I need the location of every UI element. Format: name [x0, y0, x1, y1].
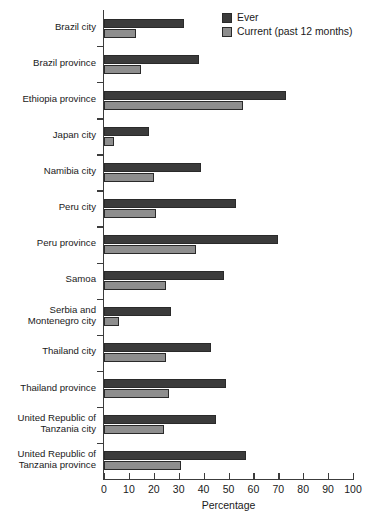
- bar-current: [104, 389, 169, 398]
- bar-group: [104, 19, 184, 38]
- category-label: Peru city: [0, 202, 96, 213]
- bar-group: [104, 379, 226, 398]
- bar-group: [104, 415, 216, 434]
- bar-ever: [104, 55, 199, 64]
- category-label: Samoa: [0, 274, 96, 285]
- chart-row: Brazil province: [0, 46, 375, 82]
- y-axis-tick: [97, 299, 104, 300]
- x-axis-tick: [179, 473, 180, 480]
- bar-current: [104, 317, 119, 326]
- bar-group: [104, 163, 201, 182]
- bar-chart: Brazil cityBrazil provinceEthiopia provi…: [0, 0, 375, 520]
- chart-row: Peru province: [0, 226, 375, 262]
- category-label: Brazil province: [0, 58, 96, 69]
- y-axis-tick: [97, 263, 104, 264]
- legend-item-ever: Ever: [222, 12, 353, 23]
- chart-row: United Republic of Tanzania province: [0, 443, 375, 479]
- x-axis-tick: [353, 473, 354, 480]
- y-axis-tick: [97, 226, 104, 227]
- bar-ever: [104, 379, 226, 388]
- bar-group: [104, 271, 224, 290]
- x-axis-tick: [328, 473, 329, 480]
- y-axis-tick: [97, 118, 104, 119]
- category-label: Namibia city: [0, 166, 96, 177]
- bar-current: [104, 245, 196, 254]
- bar-group: [104, 199, 236, 218]
- category-label: Thailand city: [0, 346, 96, 357]
- x-axis-tick: [229, 473, 230, 480]
- bar-current: [104, 173, 154, 182]
- bar-ever: [104, 271, 224, 280]
- y-axis-tick: [97, 82, 104, 83]
- bar-current: [104, 209, 156, 218]
- category-label: United Republic of Tanzania city: [0, 413, 96, 434]
- bar-ever: [104, 307, 171, 316]
- chart-row: Ethiopia province: [0, 82, 375, 118]
- legend-swatch-ever-icon: [222, 13, 232, 23]
- chart-row: Serbia and Montenegro city: [0, 299, 375, 335]
- bar-current: [104, 65, 141, 74]
- x-axis-tick-label: 100: [338, 483, 368, 495]
- bar-group: [104, 451, 246, 470]
- x-axis-tick: [253, 473, 254, 480]
- category-label: Ethiopia province: [0, 94, 96, 105]
- category-label: United Republic of Tanzania province: [0, 449, 96, 470]
- bar-group: [104, 55, 199, 74]
- category-label: Japan city: [0, 130, 96, 141]
- chart-rows: Brazil cityBrazil provinceEthiopia provi…: [0, 10, 375, 479]
- bar-current: [104, 29, 136, 38]
- bar-current: [104, 137, 114, 146]
- category-label: Serbia and Montenegro city: [0, 305, 96, 326]
- legend-swatch-current-icon: [222, 27, 232, 37]
- y-axis-tick: [97, 154, 104, 155]
- bar-ever: [104, 91, 286, 100]
- bar-group: [104, 343, 211, 362]
- chart-legend: Ever Current (past 12 months): [222, 12, 353, 40]
- x-axis-tick: [154, 473, 155, 480]
- bar-current: [104, 425, 164, 434]
- y-axis-tick: [97, 443, 104, 444]
- y-axis-tick: [97, 335, 104, 336]
- bar-ever: [104, 163, 201, 172]
- legend-label-current: Current (past 12 months): [237, 26, 353, 37]
- bar-ever: [104, 235, 278, 244]
- x-axis-tick: [278, 473, 279, 480]
- x-axis-tick: [303, 473, 304, 480]
- bar-current: [104, 461, 181, 470]
- chart-row: Peru city: [0, 190, 375, 226]
- chart-row: United Republic of Tanzania city: [0, 407, 375, 443]
- bar-ever: [104, 415, 216, 424]
- bar-current: [104, 101, 243, 110]
- bar-current: [104, 353, 166, 362]
- category-label: Peru province: [0, 238, 96, 249]
- y-axis-tick: [97, 371, 104, 372]
- chart-row: Thailand city: [0, 335, 375, 371]
- x-axis-tick: [104, 473, 105, 480]
- bar-group: [104, 91, 286, 110]
- y-axis-tick: [97, 407, 104, 408]
- chart-row: Namibia city: [0, 154, 375, 190]
- y-axis-tick: [97, 46, 104, 47]
- chart-row: Samoa: [0, 263, 375, 299]
- legend-item-current: Current (past 12 months): [222, 26, 353, 37]
- category-label: Brazil city: [0, 22, 96, 33]
- category-label: Thailand province: [0, 383, 96, 394]
- chart-row: Thailand province: [0, 371, 375, 407]
- chart-row: Japan city: [0, 118, 375, 154]
- bar-ever: [104, 199, 236, 208]
- bar-ever: [104, 19, 184, 28]
- legend-label-ever: Ever: [237, 12, 258, 23]
- bar-group: [104, 235, 278, 254]
- bar-ever: [104, 451, 246, 460]
- x-axis-tick: [204, 473, 205, 480]
- x-axis-tick: [129, 473, 130, 480]
- bar-ever: [104, 127, 149, 136]
- bar-ever: [104, 343, 211, 352]
- x-axis-title: Percentage: [104, 499, 353, 511]
- bar-group: [104, 307, 171, 326]
- bar-current: [104, 281, 166, 290]
- y-axis-tick: [97, 190, 104, 191]
- bar-group: [104, 127, 149, 146]
